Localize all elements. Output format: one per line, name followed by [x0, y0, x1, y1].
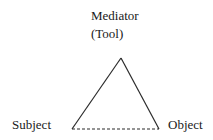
- edge-mediator-object: [121, 58, 159, 129]
- triangle-graphic: [0, 0, 213, 140]
- edge-subject-mediator: [72, 58, 121, 129]
